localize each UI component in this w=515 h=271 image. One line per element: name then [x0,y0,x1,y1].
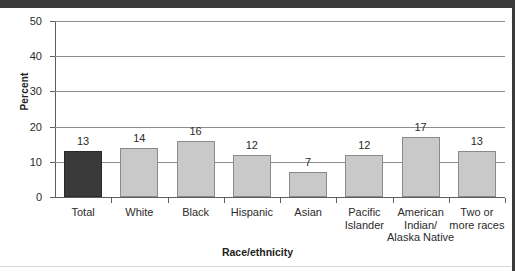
gridline [55,21,505,22]
x-axis-category-label: Two or more races [443,206,511,231]
y-axis-tick-label: 50 [8,16,42,27]
bar-value-label: 12 [224,140,280,151]
y-axis-ticks: 01020304050 [0,0,55,271]
gridline [55,56,505,57]
bar [233,155,271,197]
bar [120,148,158,197]
bar [64,151,102,197]
y-axis-tick-label: 40 [8,51,42,62]
bar-value-label: 16 [168,126,224,137]
bar-value-label: 17 [393,122,449,133]
y-axis-tick-label: 0 [8,192,42,203]
bar-value-label: 7 [280,157,336,168]
bar-value-label: 14 [111,133,167,144]
x-axis-title: Race/ethnicity [0,246,515,258]
gridline [55,91,505,92]
bar [458,151,496,197]
x-axis-tick-mark [336,198,337,203]
y-axis-tick-label: 10 [8,157,42,168]
x-axis-tick-mark [393,198,394,203]
y-axis-tick-label: 30 [8,86,42,97]
bar [345,155,383,197]
x-axis-tick-mark [280,198,281,203]
bar [289,172,327,197]
bar-chart-figure: Percent 01020304050 131416127121713 Race… [0,0,515,271]
bar [177,141,215,197]
x-axis-tick-mark [111,198,112,203]
x-axis-tick-mark [449,198,450,203]
plot-area: 131416127121713 [55,21,505,197]
y-axis-tick-label: 20 [8,122,42,133]
x-axis-tick-mark [168,198,169,203]
x-axis-tick-mark [505,198,506,203]
bar-value-label: 13 [449,136,505,147]
bar [402,137,440,197]
bar-value-label: 13 [55,136,111,147]
bar-value-label: 12 [336,140,392,151]
x-axis-tick-mark [224,198,225,203]
